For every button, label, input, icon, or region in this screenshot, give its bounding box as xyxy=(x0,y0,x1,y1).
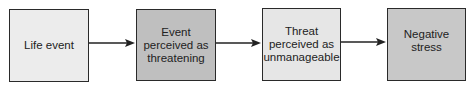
arrow-right-icon xyxy=(89,38,136,48)
node-threat-perceived-unmanageable: Threat perceived as unmanageable xyxy=(262,8,341,81)
node-label: Event perceived as threatening xyxy=(143,26,208,65)
node-label: Negative stress xyxy=(404,28,449,54)
arrow-right-icon xyxy=(216,38,262,48)
node-label: Life event xyxy=(24,39,74,52)
arrow-right-icon xyxy=(341,37,387,47)
node-negative-stress: Negative stress xyxy=(387,8,466,81)
node-life-event: Life event xyxy=(9,9,89,82)
arrow-2 xyxy=(216,38,262,48)
arrow-3 xyxy=(341,37,387,47)
node-label: Threat perceived as unmanageable xyxy=(263,25,339,64)
node-event-perceived-threatening: Event perceived as threatening xyxy=(136,9,216,81)
arrow-1 xyxy=(89,38,136,48)
